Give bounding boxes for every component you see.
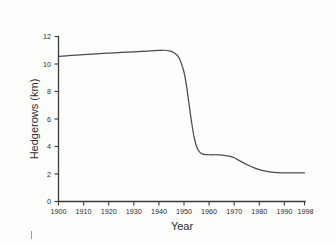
x-tick-label-1930: 1930: [126, 207, 142, 216]
x-tick-label-1990: 1990: [276, 207, 292, 216]
x-tick-label-1910: 1910: [76, 207, 92, 216]
y-tick-label-0: 0: [47, 197, 51, 206]
y-tick-label-8: 8: [47, 87, 51, 96]
x-axis-title: Year: [171, 220, 194, 232]
x-tick-label-1960: 1960: [201, 207, 217, 216]
y-tick-label-4: 4: [47, 142, 51, 151]
x-tick-label-1900: 1900: [51, 207, 67, 216]
x-tick-label-1970: 1970: [226, 207, 242, 216]
x-tick-label-1980: 1980: [251, 207, 267, 216]
y-tick-label-12: 12: [43, 32, 51, 41]
x-tick-label-1950: 1950: [176, 207, 192, 216]
x-tick-label-1920: 1920: [101, 207, 117, 216]
y-tick-label-10: 10: [43, 60, 51, 69]
x-tick-label-1940: 1940: [151, 207, 167, 216]
y-tick-label-6: 6: [47, 115, 51, 124]
x-tick-label-1998: 1998: [298, 207, 314, 216]
hedgerows-line-chart: 0 2 4 6 8 10 12 1900 1910 1920 1930 1940…: [0, 0, 336, 245]
y-tick-label-2: 2: [47, 170, 51, 179]
chart-figure: 0 2 4 6 8 10 12 1900 1910 1920 1930 1940…: [0, 0, 336, 245]
y-axis-title: Hedgerows (km): [28, 79, 40, 160]
hedgerows-data-curve: [59, 50, 305, 173]
